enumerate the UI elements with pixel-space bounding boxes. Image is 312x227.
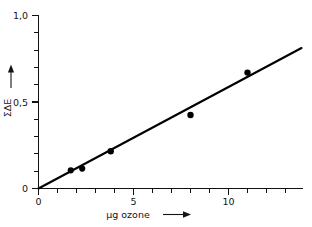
chart-background (0, 0, 312, 227)
data-point-5 (244, 69, 250, 75)
data-point-3 (108, 148, 114, 154)
ozone-calibration-chart: 1,0 0,5 0 ΣΔE (0, 0, 312, 227)
chart-canvas: 1,0 0,5 0 ΣΔE (0, 0, 312, 227)
x-tick-label-10: 10 (222, 196, 234, 207)
y-tick-label-1.0: 1,0 (13, 10, 28, 21)
x-tick-label-5: 5 (130, 196, 136, 207)
x-axis-title: µg ozone (106, 209, 150, 220)
y-axis-title: ΣΔE (2, 99, 13, 118)
x-tick-label-0: 0 (35, 196, 41, 207)
data-point-1 (68, 167, 74, 173)
y-tick-label-0.5: 0,5 (13, 97, 28, 108)
y-tick-label-0: 0 (22, 183, 28, 194)
data-point-2 (79, 166, 85, 172)
data-point-4 (187, 112, 193, 118)
